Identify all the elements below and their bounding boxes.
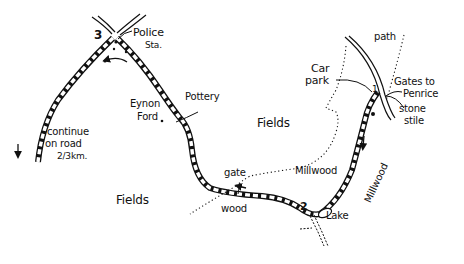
walking-route-map: 3 2 1 Police Sta. Eynon Ford Pottery con… [0, 0, 464, 264]
millwood-path-label: Millwood [295, 166, 337, 176]
track-south [300, 215, 328, 246]
waypoint-1: 1 [372, 85, 378, 94]
police-station-abbr: Sta. [145, 41, 162, 50]
waypoint-2: 2 [300, 201, 307, 212]
fields-label-center: Fields [257, 117, 290, 129]
eynon-ford-label-2: Ford [137, 112, 158, 122]
car-park-label-2: park [305, 75, 329, 86]
continue-label-1: continue [47, 127, 89, 137]
car-park-label-1: Car [311, 63, 329, 74]
path-label: path [374, 32, 396, 42]
pottery-label: Pottery [185, 92, 219, 102]
route-main [117, 38, 378, 214]
gates-label-2: Penrice [403, 89, 438, 99]
stone-stile-label-2: stile [404, 116, 424, 126]
police-station-label: Police [133, 27, 164, 38]
eynon-ford-label-1: Eynon [130, 99, 160, 109]
stone-stile-label-1: stone [399, 104, 426, 114]
fields-label-left: Fields [116, 194, 149, 206]
continue-label-2: on road [45, 139, 82, 149]
gates-label-1: Gates to [394, 77, 435, 87]
waypoint-3: 3 [94, 29, 102, 41]
pointer-lines [118, 31, 404, 194]
continue-label-3: 2/3km. [57, 152, 87, 161]
point-marker-1 [371, 112, 375, 116]
gate-label: gate [224, 168, 246, 178]
wood-label: wood [221, 204, 247, 214]
lake-label: Lake [326, 211, 349, 221]
